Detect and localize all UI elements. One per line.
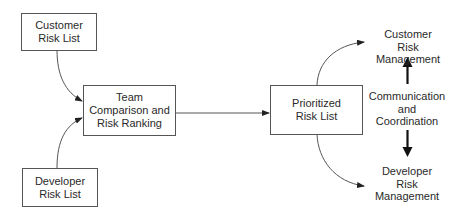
arrow-developer-to-team (57, 118, 82, 168)
team-comparison-label: Team Comparison and Risk Ranking (89, 91, 170, 130)
prioritized-risk-list-box: Prioritized Risk List (270, 85, 363, 135)
customer-risk-list-box: Customer Risk List (21, 13, 97, 51)
thick-down-arrow-icon (403, 130, 413, 157)
customer-risk-list-label: Customer Risk List (35, 19, 83, 45)
communication-coordination-label: Communication and Coordination (369, 90, 445, 128)
arrow-prioritized-to-developer-mgmt (317, 134, 364, 186)
developer-risk-management-label: Developer Risk Management (375, 165, 439, 203)
customer-risk-management-label: Customer Risk Management (376, 28, 440, 66)
developer-risk-list-box: Developer Risk List (22, 168, 98, 207)
arrow-customer-to-team (57, 50, 82, 101)
developer-risk-list-label: Developer Risk List (35, 175, 85, 201)
arrow-prioritized-to-customer-mgmt (317, 42, 364, 85)
prioritized-risk-list-label: Prioritized Risk List (292, 97, 341, 123)
team-comparison-box: Team Comparison and Risk Ranking (83, 85, 176, 136)
